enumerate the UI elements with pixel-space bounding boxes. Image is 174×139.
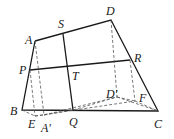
segment-D-D1 — [111, 20, 117, 97]
label-R: R — [133, 51, 142, 65]
geometry-diagram: A S D P T R B Q C E A' D' F — [0, 0, 174, 139]
label-A: A — [24, 33, 33, 47]
solid-edges — [22, 20, 158, 111]
quadrilateral-ABCD — [22, 20, 158, 111]
segment-A-A1 — [35, 41, 44, 115]
dashed-edges — [22, 20, 158, 116]
label-Q: Q — [69, 115, 78, 129]
segment-PR — [30, 60, 130, 70]
segment-B-E — [22, 110, 35, 116]
segment-E-F — [35, 101, 135, 116]
label-S: S — [58, 17, 64, 31]
label-C: C — [154, 117, 163, 131]
segment-P-E — [30, 70, 35, 116]
label-B: B — [10, 104, 18, 118]
label-E: E — [27, 117, 36, 131]
label-D-prime: D' — [105, 87, 118, 101]
label-F: F — [138, 91, 147, 105]
label-D: D — [105, 4, 115, 18]
label-T: T — [72, 69, 80, 83]
label-P: P — [18, 63, 27, 77]
label-A-prime: A' — [40, 121, 51, 135]
